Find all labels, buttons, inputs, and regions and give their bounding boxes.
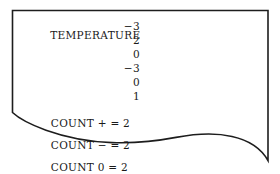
reading-value: −3	[92, 19, 140, 33]
printout-content: TEMPERATURE −3 2 0 −3 0 1 COUNT + = 2 CO…	[0, 0, 280, 174]
count-zero-total: COUNT 0 = 2	[51, 162, 128, 173]
totals-row: COUNT + = 2 COUNT − = 2 COUNT 0 = 2	[29, 107, 130, 174]
figure-canvas: TEMPERATURE −3 2 0 −3 0 1 COUNT + = 2 CO…	[0, 0, 280, 174]
reading-value: 0	[92, 47, 140, 61]
reading-value: 2	[92, 33, 140, 47]
reading-value: 1	[92, 89, 140, 103]
reading-value: −3	[92, 61, 140, 75]
temperature-readings-column: −3 2 0 −3 0 1	[92, 19, 140, 104]
count-negative-total: COUNT − = 2	[51, 140, 130, 151]
reading-value: 0	[92, 75, 140, 89]
count-positive-total: COUNT + = 2	[51, 118, 130, 129]
